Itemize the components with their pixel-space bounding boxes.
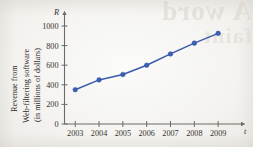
x-tick-label: 2003 <box>67 129 83 138</box>
y-tick-label: 0 <box>54 120 58 129</box>
y-axis-tick-labels: 02004006008001000 <box>42 22 58 129</box>
y-tick-label: 800 <box>46 42 58 51</box>
data-point-marker <box>192 41 197 46</box>
y-tick-label: 400 <box>46 81 58 90</box>
y-axis-symbol-label: R <box>53 8 59 17</box>
data-point-marker <box>97 78 102 83</box>
x-axis-tick-labels: 2003200420052006200720082009 <box>67 129 226 138</box>
revenue-series-line <box>75 33 218 89</box>
x-tick-label: 2008 <box>186 129 202 138</box>
y-axis-caption-line-2: Web-filtering software <box>22 49 31 123</box>
data-point-marker <box>73 87 78 92</box>
line-chart-figure: Revenue from Web-filtering software (in … <box>0 0 253 147</box>
data-point-marker <box>168 52 173 57</box>
data-point-marker <box>144 63 149 68</box>
y-axis-caption-line-1: Revenue from <box>10 65 19 112</box>
y-axis-caption-line-3: (in millions of dollars) <box>33 48 42 122</box>
revenue-data-markers <box>73 31 221 92</box>
y-tick-label: 200 <box>46 100 58 109</box>
x-tick-label: 2004 <box>91 129 107 138</box>
x-axis-symbol-label: t <box>244 127 247 136</box>
x-tick-label: 2006 <box>138 129 154 138</box>
data-point-marker <box>121 72 126 77</box>
y-tick-label: 1000 <box>42 22 58 31</box>
data-point-marker <box>216 31 221 36</box>
x-tick-label: 2009 <box>210 129 226 138</box>
x-tick-label: 2007 <box>162 129 178 138</box>
x-tick-label: 2005 <box>115 129 131 138</box>
y-tick-label: 600 <box>46 61 58 70</box>
